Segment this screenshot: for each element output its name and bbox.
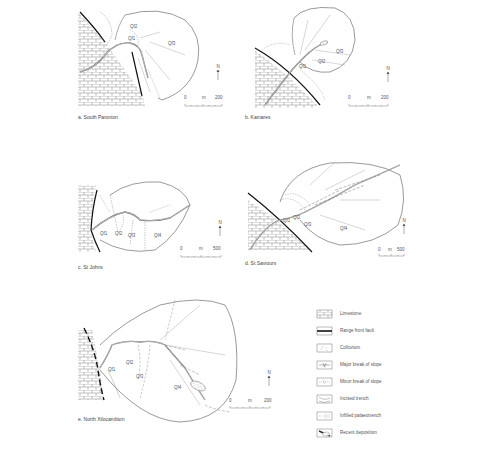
svg-text:Qf3: Qf3 <box>128 233 136 238</box>
svg-text:N: N <box>218 220 221 225</box>
legend-label-infilled-palaeotrench: Infilled palaeotrench <box>340 413 381 418</box>
caption-st-johns: c. St Johns <box>78 264 103 270</box>
colluvium-symbol <box>317 344 332 352</box>
svg-text:m: m <box>199 246 203 251</box>
caption-south-paronion: a. South Paronion <box>78 114 118 120</box>
svg-text:Qf4: Qf4 <box>174 385 182 390</box>
incised-trench-symbol <box>317 395 332 403</box>
panel-a-map: Qf1 Qf2 Qf3 N 0 m 200 <box>78 11 223 106</box>
fan-boundary <box>100 300 237 422</box>
svg-text:0: 0 <box>180 246 183 251</box>
svg-text:Qf1: Qf1 <box>100 231 108 236</box>
panel-b-map: Qf1 Qf2 Qf3 N 0 m 200 <box>255 7 390 108</box>
fan-boundary <box>280 163 404 246</box>
caption-kamares: b. Kamares <box>245 114 271 120</box>
north-label: N <box>216 64 219 69</box>
panel-c-map: Qf1 Qf2 Qf3 Qf4 N 0 m 500 <box>78 182 222 257</box>
svg-text:0: 0 <box>378 247 381 252</box>
svg-text:200: 200 <box>381 95 389 100</box>
svg-text:0: 0 <box>229 398 232 403</box>
svg-text:0: 0 <box>348 95 351 100</box>
svg-text:Qf3: Qf3 <box>304 222 312 227</box>
svg-text:Qf3: Qf3 <box>336 49 344 54</box>
label-qf3: Qf3 <box>168 41 176 46</box>
svg-text:Qf2: Qf2 <box>126 360 134 365</box>
svg-text:Qf3: Qf3 <box>136 374 144 379</box>
legend-label-minor-break: Minor break of slope <box>340 379 382 384</box>
svg-text:m: m <box>388 247 392 252</box>
legend-label-recent-deposition: Recent deposition <box>340 430 377 435</box>
recent-deposition-area <box>189 379 207 393</box>
incised-trench <box>100 341 205 400</box>
limestone-symbol <box>317 310 332 318</box>
panel-e-map: Qf1 Qf2 Qf3 Qf4 N 0 m 200 <box>78 300 272 422</box>
legend-label-colluvium: Colluvium <box>340 345 360 350</box>
svg-text:Qf2: Qf2 <box>115 231 123 236</box>
legend-label-limestone: Limestone <box>340 311 361 316</box>
svg-text:500: 500 <box>397 247 405 252</box>
caption-north-xilocambion: e. North Xilocambion <box>78 416 124 422</box>
svg-text:m: m <box>367 95 371 100</box>
label-qf2: Qf2 <box>130 24 138 29</box>
svg-text:Qf2: Qf2 <box>318 59 326 64</box>
legend-label-major-break: Major break of slope <box>340 362 382 367</box>
svg-text:Qf1: Qf1 <box>299 64 307 69</box>
legend-symbols <box>317 310 332 437</box>
svg-text:Qf4: Qf4 <box>340 226 348 231</box>
panel-d-map: Qf1 Qf2 Qf3 Qf4 N 0 m 500 <box>248 162 406 256</box>
svg-text:N: N <box>402 218 405 223</box>
svg-text:N: N <box>267 370 270 375</box>
svg-text:Qf2: Qf2 <box>293 215 301 220</box>
legend-label-incised-trench: Incised trench <box>340 396 369 401</box>
svg-text:m: m <box>248 398 252 403</box>
svg-text:500: 500 <box>213 246 221 251</box>
incised-trench <box>92 205 190 230</box>
svg-text:Qf1: Qf1 <box>108 367 116 372</box>
svg-text:0: 0 <box>184 95 187 100</box>
scale-bar <box>185 104 222 106</box>
caption-st-saviours: d. St Saviours <box>245 260 276 266</box>
alluvial-fan-maps: Qf1 Qf2 Qf3 N 0 m 200 Qf1 Qf2 Qf3 N 0 m … <box>0 0 503 455</box>
label-qf1: Qf1 <box>128 36 136 41</box>
legend-label-range-front-fault: Range front fault <box>340 328 374 333</box>
svg-text:Qf4: Qf4 <box>154 233 162 238</box>
svg-text:200: 200 <box>215 95 223 100</box>
svg-text:200: 200 <box>264 398 272 403</box>
svg-text:N: N <box>386 66 389 71</box>
svg-text:Qf1: Qf1 <box>283 218 291 223</box>
svg-text:m: m <box>202 95 206 100</box>
